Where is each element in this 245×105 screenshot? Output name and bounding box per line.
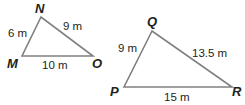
side-label-pr: 15 m [164,91,190,103]
vertex-label-r: R [232,84,242,99]
side-label-pq: 9 m [118,42,137,54]
vertex-label-q: Q [147,14,157,29]
vertex-label-m: M [7,56,19,71]
similar-triangles-diagram: N M O 6 m 9 m 10 m Q P R 9 m 13.5 m 15 m [0,0,245,105]
side-label-mn: 6 m [8,27,27,39]
vertex-label-o: O [92,56,102,71]
side-label-no: 9 m [63,20,82,32]
triangle-mno [22,17,93,56]
vertex-label-p: P [110,84,119,99]
vertex-label-n: N [35,1,45,16]
triangle-pqr [124,31,232,87]
side-label-mo: 10 m [42,59,68,71]
diagram-svg: N M O 6 m 9 m 10 m Q P R 9 m 13.5 m 15 m [0,0,245,105]
side-label-qr: 13.5 m [192,47,227,59]
